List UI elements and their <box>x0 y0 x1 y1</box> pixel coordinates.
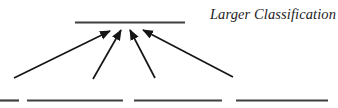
classification-diagram: Larger Classification <box>0 0 338 108</box>
merge-arrow <box>143 30 233 77</box>
larger-classification-label: Larger Classification <box>210 6 336 22</box>
merge-arrow <box>130 30 155 78</box>
merge-arrow <box>14 31 110 78</box>
diagram-lines <box>0 23 328 101</box>
